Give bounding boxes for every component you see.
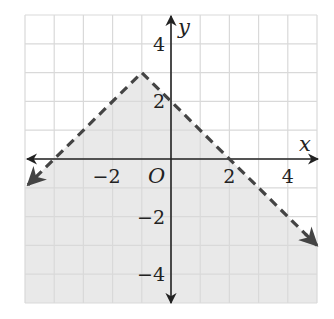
x-axis-label: x [299, 132, 311, 156]
y-tick-label: −2 [137, 206, 165, 228]
x-tick-label: −2 [93, 165, 121, 187]
y-axis-label: y [177, 15, 191, 39]
y-tick-label: −4 [137, 263, 165, 285]
graph: −22442−2−4 x y O [0, 0, 334, 319]
y-tick-label: 2 [153, 90, 165, 112]
x-tick-label: 4 [282, 165, 294, 187]
x-tick-label: 2 [223, 165, 235, 187]
y-tick-label: 4 [153, 33, 165, 55]
origin-label: O [148, 164, 165, 188]
